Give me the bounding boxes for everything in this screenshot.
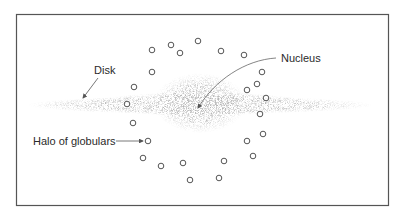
globular-cluster <box>263 95 269 101</box>
globular-cluster <box>124 101 130 107</box>
globular-cluster <box>149 47 155 53</box>
globular-cluster <box>221 158 227 164</box>
globular-cluster <box>241 52 247 58</box>
globular-cluster <box>244 87 250 93</box>
globular-cluster <box>218 48 224 54</box>
globular-cluster <box>250 153 256 159</box>
globular-cluster <box>149 69 155 75</box>
globular-cluster <box>259 69 265 75</box>
globular-cluster <box>180 160 186 166</box>
galaxy-diagram: Disk Nucleus Halo of globulars <box>0 0 410 215</box>
globular-cluster <box>140 155 146 161</box>
globular-cluster <box>131 84 137 90</box>
disk-label: Disk <box>94 64 116 76</box>
globular-cluster <box>158 163 164 169</box>
globular-cluster <box>260 131 266 137</box>
globular-cluster <box>195 38 201 44</box>
halo-label: Halo of globulars <box>33 135 116 147</box>
globular-cluster <box>130 120 136 126</box>
globular-cluster <box>254 81 260 87</box>
nucleus-label: Nucleus <box>281 52 321 64</box>
globular-cluster <box>216 175 222 181</box>
globular-cluster <box>145 138 151 144</box>
globular-cluster <box>257 111 263 117</box>
galaxy-nucleus <box>154 73 246 133</box>
globular-cluster <box>244 138 250 144</box>
globular-cluster <box>187 177 193 183</box>
globular-cluster <box>168 42 174 48</box>
globular-cluster <box>177 50 183 56</box>
